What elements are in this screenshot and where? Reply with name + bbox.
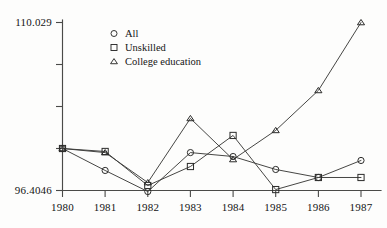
y-axis-label-max: 110.029 — [15, 16, 52, 28]
y-axis-ticks — [56, 23, 63, 191]
chart-legend: All Unskilled College education — [111, 28, 202, 67]
series-line — [63, 22, 362, 182]
x-axis-label: 1984 — [222, 201, 245, 213]
circle-marker-glyph — [111, 31, 117, 37]
triangle-marker-glyph — [111, 59, 118, 64]
legend-entry-college: College education — [111, 56, 202, 67]
legend-entry-unskilled: Unskilled — [111, 42, 167, 53]
circle-marker-icon — [111, 31, 117, 37]
x-axis-label: 1985 — [264, 201, 287, 213]
x-axis-labels: 1980 1981 1982 1983 1984 1985 1986 1987 — [51, 201, 373, 213]
triangle-marker-icon — [111, 59, 118, 64]
line-chart-canvas: 110.029 96.4046 1980 1981 1982 1983 1984… — [0, 0, 387, 228]
x-axis-label: 1987 — [350, 201, 373, 213]
x-axis-ticks — [63, 191, 362, 198]
series-line — [63, 135, 362, 189]
x-axis-label: 1983 — [179, 201, 202, 213]
series-college-education — [59, 19, 365, 184]
square-marker-glyph — [111, 45, 117, 51]
axes-group — [63, 20, 382, 191]
x-axis-label: 1982 — [136, 201, 159, 213]
x-axis-label: 1986 — [307, 201, 330, 213]
series-unskilled — [59, 132, 364, 192]
legend-label: College education — [125, 56, 202, 67]
legend-label: All — [125, 28, 139, 39]
chart-figure: 110.029 96.4046 1980 1981 1982 1983 1984… — [0, 0, 387, 228]
x-axis-label: 1981 — [94, 201, 117, 213]
square-marker-icon — [111, 45, 117, 51]
legend-entry-all: All — [111, 28, 139, 39]
legend-label: Unskilled — [125, 42, 167, 53]
y-axis-label-min: 96.4046 — [15, 184, 52, 196]
x-axis-label: 1980 — [51, 201, 74, 213]
data-series-layer — [59, 19, 365, 194]
